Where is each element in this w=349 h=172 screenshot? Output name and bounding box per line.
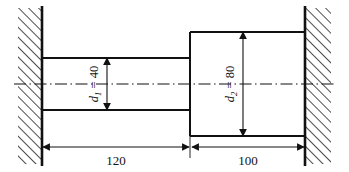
right-wall-support <box>305 6 331 166</box>
diameter-1-label: d1 = 40 <box>87 66 103 102</box>
drawing-canvas: d1 = 40 d2 = 80 120 100 <box>0 0 349 172</box>
length-left-label: 120 <box>106 153 126 168</box>
left-wall-support <box>18 6 42 166</box>
length-right-label: 100 <box>238 153 258 168</box>
diameter-1-value: 40 <box>87 66 101 79</box>
diameter-2-label: d2 = 80 <box>223 66 239 102</box>
length-right-dimension: 100 <box>192 147 304 168</box>
right-wall-hatching <box>305 8 331 164</box>
diameter-1-equals: = <box>87 78 101 91</box>
engineering-drawing-figure: d1 = 40 d2 = 80 120 100 <box>0 0 349 172</box>
left-wall-hatching <box>18 8 42 164</box>
diameter-2-value: 80 <box>223 66 237 79</box>
diameter-2-equals: = <box>223 78 237 91</box>
length-left-dimension: 120 <box>43 147 189 168</box>
